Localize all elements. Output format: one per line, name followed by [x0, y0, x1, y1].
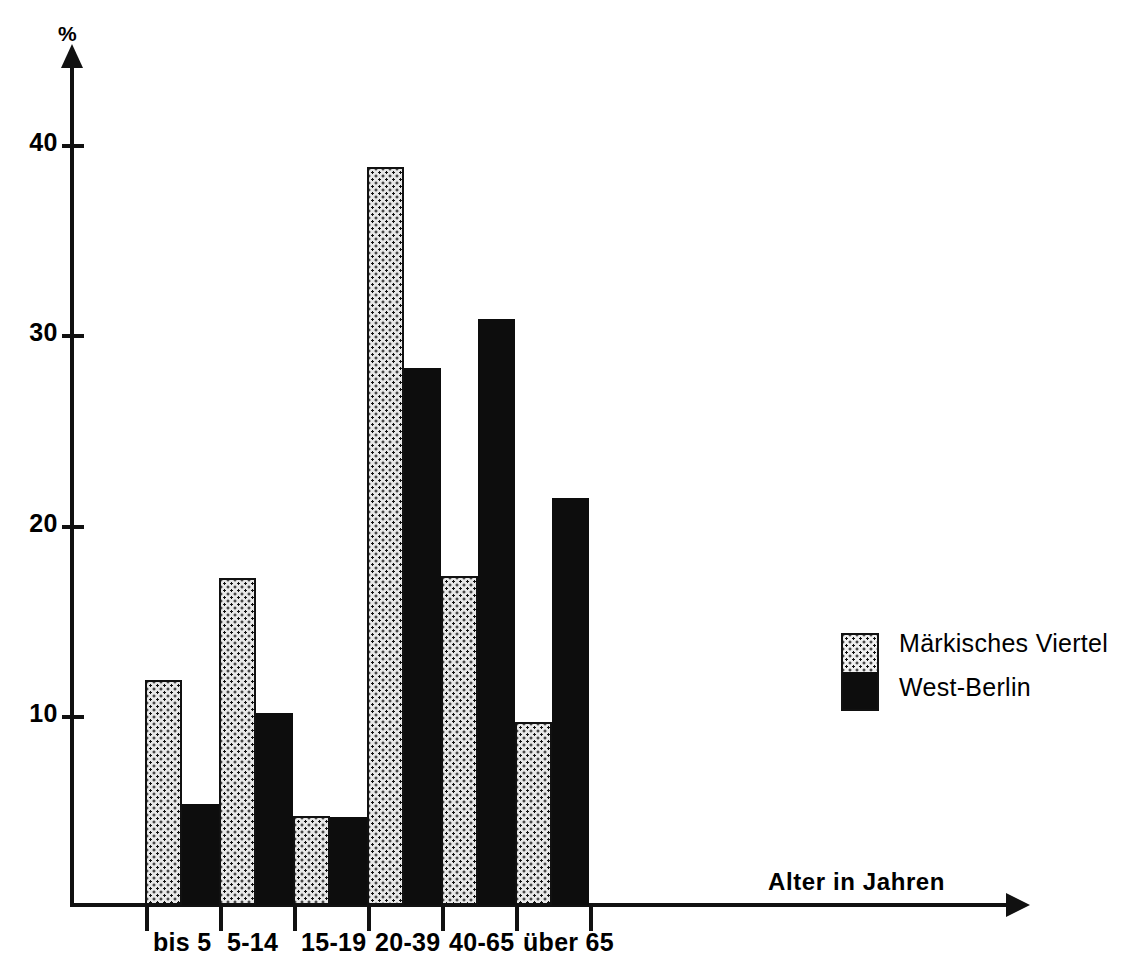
- bar-markisches-viertel-5: [515, 722, 552, 905]
- y-tick-label-40: 40: [12, 128, 58, 157]
- category-tick-5: [515, 905, 519, 931]
- bar-chart: % 40 30 20 10 Alter in Jahren bis 55-141…: [0, 0, 1126, 966]
- legend-swatch: [841, 633, 879, 711]
- bar-markisches-viertel-4: [441, 576, 478, 905]
- x-axis-label: Alter in Jahren: [768, 868, 945, 896]
- x-axis-arrow-icon: [1006, 893, 1030, 917]
- legend-swatch-west-berlin: [843, 672, 877, 709]
- category-label-0: bis 5: [153, 928, 211, 957]
- y-axis-arrow-icon: [61, 44, 83, 68]
- y-tick-20: [62, 525, 84, 529]
- legend-label-markisches-viertel: Märkisches Viertel: [899, 629, 1108, 658]
- category-tick-4: [441, 905, 445, 931]
- bar-markisches-viertel-2: [293, 816, 330, 905]
- category-label-3: 20-39: [375, 928, 440, 957]
- y-axis-line: [70, 62, 74, 907]
- y-tick-label-10: 10: [12, 699, 58, 728]
- bar-west-berlin-2: [330, 817, 367, 905]
- bar-west-berlin-5: [552, 498, 589, 905]
- plot-area: [145, 62, 589, 905]
- category-tick-2: [293, 905, 297, 931]
- bar-west-berlin-0: [182, 804, 219, 905]
- category-tick-end: [589, 905, 593, 931]
- y-axis-unit-label: %: [58, 22, 77, 46]
- bar-markisches-viertel-0: [145, 680, 182, 905]
- category-label-2: 15-19: [301, 928, 366, 957]
- y-tick-30: [62, 334, 84, 338]
- y-tick-40: [62, 144, 84, 148]
- legend-swatch-markisches-viertel: [843, 635, 877, 672]
- bar-markisches-viertel-1: [219, 578, 256, 905]
- category-tick-3: [367, 905, 371, 931]
- category-label-4: 40-65: [449, 928, 514, 957]
- y-tick-label-30: 30: [12, 318, 58, 347]
- bar-west-berlin-4: [478, 319, 515, 905]
- bar-markisches-viertel-3: [367, 167, 404, 905]
- y-tick-10: [62, 715, 84, 719]
- bar-west-berlin-1: [256, 713, 293, 905]
- category-label-1: 5-14: [227, 928, 278, 957]
- category-label-5: über 65: [523, 928, 614, 957]
- category-tick-0: [145, 905, 149, 931]
- bar-west-berlin-3: [404, 368, 441, 905]
- legend-label-west-berlin: West-Berlin: [899, 673, 1031, 702]
- category-tick-1: [219, 905, 223, 931]
- y-tick-label-20: 20: [12, 509, 58, 538]
